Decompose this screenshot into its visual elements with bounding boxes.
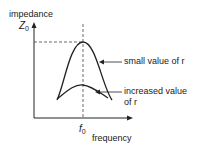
- z0-subscript: 0: [25, 25, 29, 32]
- z0-label: Z0: [19, 21, 29, 34]
- f0-subscript: 0: [82, 128, 86, 135]
- y-axis-label: impedance: [9, 9, 53, 19]
- f0-label: f0: [79, 124, 86, 137]
- resonance-diagram: [0, 0, 200, 150]
- x-axis-label: frequency: [92, 133, 132, 143]
- curve-small-r: [57, 42, 112, 100]
- leader-small-r-arrow-icon: [99, 60, 104, 65]
- label-small-r: small value of r: [124, 56, 185, 66]
- x-axis-arrow-icon: [127, 116, 133, 121]
- label-increased-r-line2: of r: [124, 97, 137, 107]
- y-axis-arrow-icon: [32, 22, 37, 28]
- label-increased-r-line1: increased value: [124, 86, 187, 96]
